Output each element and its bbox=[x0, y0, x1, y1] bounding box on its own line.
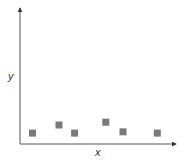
data-point-marker bbox=[56, 122, 63, 129]
data-point-marker bbox=[120, 128, 127, 135]
data-points bbox=[29, 119, 161, 137]
x-axis-label: x bbox=[94, 146, 101, 158]
data-point-marker bbox=[29, 130, 36, 137]
data-point-marker bbox=[102, 119, 109, 126]
scatter-chart: y x bbox=[0, 0, 185, 163]
y-axis-label: y bbox=[7, 70, 15, 82]
data-point-marker bbox=[154, 130, 161, 137]
data-point-marker bbox=[71, 130, 78, 137]
